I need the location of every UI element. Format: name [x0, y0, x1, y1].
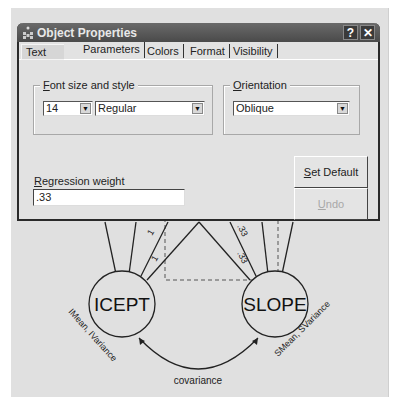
object-properties-dialog: Object Properties ? ✕ Text Parameters Co… — [17, 23, 380, 221]
orientation-group-label: Orientation — [230, 79, 290, 91]
tab-format[interactable]: Format — [186, 44, 230, 58]
close-button[interactable]: ✕ — [360, 25, 375, 40]
path-label-right-upper: .33 — [235, 222, 250, 238]
dialog-title: Object Properties — [37, 26, 137, 40]
orientation-select[interactable]: Oblique ▼ — [233, 101, 350, 116]
orientation-group: Orientation Oblique ▼ — [223, 85, 360, 135]
orientation-value: Oblique — [236, 102, 274, 114]
tab-colors[interactable]: Colors — [143, 44, 184, 58]
path-label-left-upper: 1 — [145, 228, 156, 237]
covariance-label: covariance — [174, 375, 223, 386]
chevron-down-icon[interactable]: ▼ — [80, 103, 91, 114]
font-style-select[interactable]: Regular ▼ — [95, 101, 205, 116]
path-label-left-lower: 1 — [149, 254, 160, 263]
font-size-select[interactable]: 14 ▼ — [43, 101, 93, 116]
node-icept-label: ICEPT — [94, 294, 150, 315]
undo-button[interactable]: Undo — [294, 188, 368, 220]
font-size-style-group: Font size and style 14 ▼ Regular ▼ — [33, 85, 213, 135]
chevron-down-icon[interactable]: ▼ — [337, 103, 348, 114]
tab-visibility[interactable]: Visibility — [229, 44, 278, 58]
app-icon — [22, 26, 34, 39]
node-slope-label: SLOPE — [243, 294, 306, 315]
covariance-arc — [139, 338, 258, 369]
tab-strip: Text Parameters Colors Format Visibility — [19, 42, 378, 60]
tab-text[interactable]: Text — [21, 44, 64, 60]
dialog-titlebar[interactable]: Object Properties ? ✕ — [17, 23, 380, 42]
regression-weight-input[interactable]: .33 — [33, 189, 185, 206]
set-default-button[interactable]: Set Default — [294, 156, 368, 188]
font-size-value: 14 — [46, 102, 58, 114]
tab-parameters[interactable]: Parameters — [79, 42, 145, 58]
font-style-value: Regular — [98, 102, 137, 114]
help-button[interactable]: ? — [343, 25, 358, 40]
chevron-down-icon[interactable]: ▼ — [192, 103, 203, 114]
path-label-right-lower: .33 — [235, 249, 250, 265]
regression-weight-label: Regression weight — [34, 175, 125, 187]
font-group-label: Font size and style — [40, 79, 138, 91]
